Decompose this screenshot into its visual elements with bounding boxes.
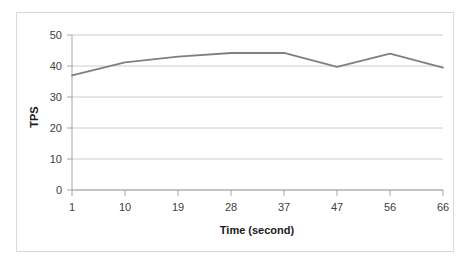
y-tick-label-2: 20	[50, 122, 62, 134]
y-tick-label-1: 10	[50, 153, 62, 165]
x-axis-title: Time (second)	[220, 224, 295, 236]
x-tick-label-3: 28	[225, 201, 237, 213]
x-tick-labels: 1 10 19 28 37 47 56 66	[69, 201, 449, 213]
x-tick-label-7: 66	[437, 201, 449, 213]
line-chart: 50 40 30 20 10 0 TPS 1 10 19 28 37	[0, 0, 470, 264]
y-tick-label-0: 0	[56, 184, 62, 196]
y-tick-label-4: 40	[50, 60, 62, 72]
y-axis	[67, 35, 72, 190]
gridlines	[72, 35, 443, 190]
y-axis-title: TPS	[28, 106, 40, 127]
x-tick-label-5: 47	[331, 201, 343, 213]
x-axis	[72, 190, 443, 196]
y-tick-label-3: 30	[50, 91, 62, 103]
x-tick-label-4: 37	[278, 201, 290, 213]
y-tick-label-5: 50	[50, 29, 62, 41]
x-tick-label-2: 19	[172, 201, 184, 213]
x-tick-label-1: 10	[119, 201, 131, 213]
y-tick-labels: 50 40 30 20 10 0	[50, 29, 62, 196]
chart-svg: 50 40 30 20 10 0 TPS 1 10 19 28 37	[0, 0, 470, 264]
data-line-tps	[72, 53, 443, 75]
x-tick-label-6: 56	[384, 201, 396, 213]
x-tick-label-0: 1	[69, 201, 75, 213]
